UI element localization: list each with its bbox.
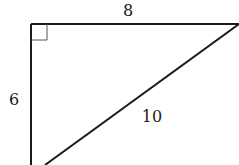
hypotenuse xyxy=(45,24,239,165)
top-side-label: 8 xyxy=(123,1,133,20)
left-side-label: 6 xyxy=(9,90,19,109)
hypotenuse-label: 10 xyxy=(142,107,162,126)
right-angle-marker xyxy=(31,24,47,40)
right-triangle-diagram: 8 6 10 xyxy=(0,0,239,165)
